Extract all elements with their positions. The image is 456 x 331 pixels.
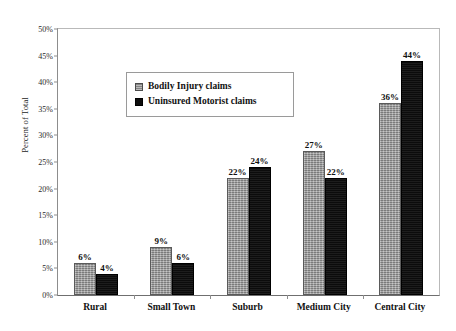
y-tick-mark-50	[54, 29, 58, 30]
bar-chart: Percent of Total 0%5%10%15%20%25%30%35%4…	[0, 0, 456, 331]
bar-small-town-series-0[interactable]: 9%	[150, 247, 172, 295]
bar-suburb-series-1[interactable]: 24%	[249, 167, 271, 295]
y-tick-mark-25	[54, 162, 58, 163]
y-tick-mark-30	[54, 135, 58, 136]
y-tick-mark-20	[54, 188, 58, 189]
category-label-rural: Rural	[57, 302, 133, 312]
bar-value-label: 44%	[403, 50, 421, 60]
legend-item-1[interactable]: Uninsured Motorist claims	[135, 94, 285, 109]
legend-swatch-icon-series-0	[135, 83, 143, 91]
y-tick-mark-45	[54, 55, 58, 56]
category-label-medium-city: Medium City	[286, 302, 362, 312]
bar-value-label: 24%	[251, 156, 269, 166]
x-axis-tick-3	[287, 295, 288, 299]
x-axis-tick-4	[363, 295, 364, 299]
legend-item-0[interactable]: Bodily Injury claims	[135, 79, 285, 94]
legend-swatch-icon-series-1	[135, 98, 143, 106]
y-tick-mark-40	[54, 82, 58, 83]
legend-label-series-0: Bodily Injury claims	[148, 82, 231, 92]
category-label-central-city: Central City	[362, 302, 438, 312]
category-label-suburb: Suburb	[209, 302, 285, 312]
plot-area: 0%5%10%15%20%25%30%35%40%45%50% 6%4%9%6%…	[57, 28, 440, 296]
bar-central-city-series-1[interactable]: 44%	[401, 61, 423, 295]
y-tick-mark-15	[54, 215, 58, 216]
bar-medium-city-series-1[interactable]: 22%	[325, 178, 347, 295]
bar-medium-city-series-0[interactable]: 27%	[303, 151, 325, 295]
bar-suburb-series-0[interactable]: 22%	[227, 178, 249, 295]
category-label-small-town: Small Town	[133, 302, 209, 312]
bar-rural-series-0[interactable]: 6%	[74, 263, 96, 295]
bar-value-label: 4%	[100, 263, 114, 273]
bar-value-label: 9%	[155, 236, 169, 246]
bar-small-town-series-1[interactable]: 6%	[172, 263, 194, 295]
bar-rural-series-1[interactable]: 4%	[96, 274, 118, 295]
bar-value-label: 6%	[78, 252, 92, 262]
bar-value-label: 22%	[229, 167, 247, 177]
bar-value-label: 27%	[305, 140, 323, 150]
legend-label-series-1: Uninsured Motorist claims	[148, 97, 257, 107]
legend: Bodily Injury claims Uninsured Motorist …	[126, 72, 294, 117]
bar-value-label: 36%	[381, 92, 399, 102]
y-tick-mark-5	[54, 268, 58, 269]
y-tick-mark-35	[54, 108, 58, 109]
y-tick-mark-10	[54, 241, 58, 242]
bar-value-label: 22%	[327, 167, 345, 177]
y-axis-title: Percent of Total	[20, 55, 30, 195]
bar-central-city-series-0[interactable]: 36%	[379, 103, 401, 295]
bar-value-label: 6%	[177, 252, 191, 262]
x-axis-tick-1	[134, 295, 135, 299]
y-tick-mark-0	[54, 295, 58, 296]
x-axis-tick-2	[210, 295, 211, 299]
